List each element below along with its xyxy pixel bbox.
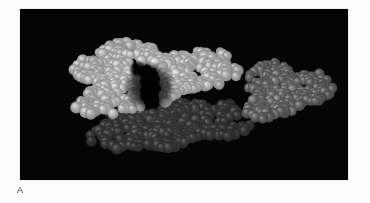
panel-label-a: A <box>17 185 23 195</box>
image-plate <box>20 9 348 180</box>
molecular-model-render <box>20 9 348 180</box>
figure-panel: A <box>0 0 370 203</box>
